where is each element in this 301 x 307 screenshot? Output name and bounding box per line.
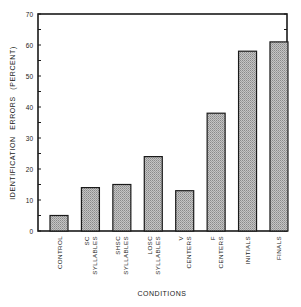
svg-text:F: F — [209, 236, 216, 240]
svg-text:LOSC: LOSC — [146, 236, 153, 255]
x-tick-label: SHSCSYLLABLES — [114, 236, 129, 275]
svg-text:CONTROL: CONTROL — [56, 236, 63, 269]
bar — [113, 185, 131, 232]
svg-text:FINALS: FINALS — [275, 236, 282, 260]
y-tick-label: 70 — [26, 11, 34, 18]
bar — [81, 188, 99, 231]
svg-text:INITIALS: INITIALS — [244, 236, 251, 264]
bar — [50, 216, 68, 232]
x-axis-tick-labels: CONTROLSCSYLLABLESSHSCSYLLABLESLOSCSYLLA… — [56, 236, 283, 275]
bar — [239, 51, 257, 231]
x-tick-label: INITIALS — [244, 236, 251, 264]
svg-text:SYLLABLES: SYLLABLES — [154, 236, 161, 275]
svg-text:SHSC: SHSC — [114, 236, 121, 255]
bar — [176, 191, 194, 231]
x-tick-label: FCENTERS — [209, 236, 224, 268]
bars — [50, 42, 288, 231]
svg-text:CENTERS: CENTERS — [185, 236, 192, 268]
bar — [144, 157, 162, 231]
y-tick-label: 50 — [26, 73, 34, 80]
x-axis-label: CONDITIONS — [138, 290, 187, 297]
svg-text:SYLLABLES: SYLLABLES — [91, 236, 98, 275]
y-axis-label: IDENTIFICATION ERRORS (PERCENT) — [9, 46, 16, 200]
y-tick-label: 40 — [26, 104, 34, 111]
x-tick-label: FINALS — [275, 236, 282, 260]
y-tick-label: 10 — [26, 197, 34, 204]
y-tick-label: 30 — [26, 135, 34, 142]
bar-chart: 010203040506070 CONTROLSCSYLLABLESSHSCSY… — [0, 0, 301, 307]
x-tick-label: CONTROL — [56, 236, 63, 269]
svg-text:SC: SC — [83, 236, 90, 246]
svg-text:CENTERS: CENTERS — [217, 236, 224, 268]
svg-text:V: V — [177, 236, 184, 241]
svg-text:SYLLABLES: SYLLABLES — [122, 236, 129, 275]
x-tick-label: VCENTERS — [177, 236, 192, 269]
y-tick-label: 0 — [29, 228, 33, 235]
x-tick-label: LOSCSYLLABLES — [146, 236, 161, 275]
y-tick-label: 60 — [26, 42, 34, 49]
bar — [270, 42, 288, 231]
x-tick-label: SCSYLLABLES — [83, 236, 98, 275]
y-tick-label: 20 — [26, 166, 34, 173]
bar — [207, 113, 225, 231]
